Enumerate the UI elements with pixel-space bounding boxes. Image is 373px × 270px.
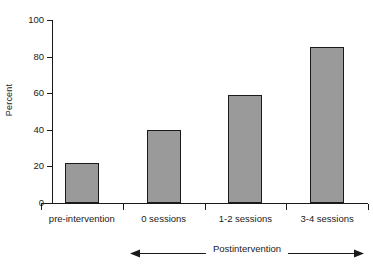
x-category-label: pre-intervention (41, 213, 123, 224)
y-axis-line (52, 20, 53, 204)
x-category-label: 0 sessions (123, 213, 205, 224)
postintervention-annotation: Postintervention (130, 243, 364, 259)
bar (310, 47, 344, 203)
bar (147, 130, 181, 203)
y-axis-title: Percent (4, 70, 14, 130)
x-category-label: 3-4 sessions (286, 213, 368, 224)
y-tick-label: 80 (18, 52, 44, 62)
bar-chart-figure: Percent 100806040200 pre-intervention0 s… (0, 0, 373, 270)
bar (65, 163, 99, 203)
x-tick-mark (286, 204, 287, 210)
x-tick-mark (368, 204, 369, 210)
x-category-label: 1-2 sessions (205, 213, 287, 224)
x-tick-mark (205, 204, 206, 210)
x-tick-mark (123, 204, 124, 210)
y-tick-label: 40 (18, 125, 44, 135)
postintervention-label: Postintervention (206, 243, 288, 254)
y-tick-label: 60 (18, 88, 44, 98)
bar (228, 95, 262, 203)
y-tick-label: 100 (18, 15, 44, 25)
x-tick-mark (41, 204, 42, 210)
y-tick-label: 20 (18, 161, 44, 171)
